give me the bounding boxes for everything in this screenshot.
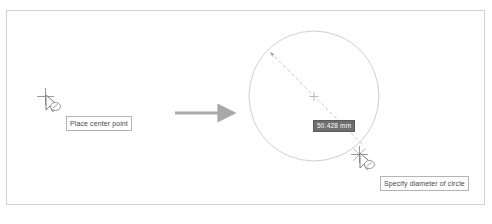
figure-canvas: Place center point Specify diameter of c… [0, 0, 492, 224]
diameter-value-field[interactable]: 50.428 mm [313, 120, 355, 132]
crosshair-circle-cursor-left [34, 86, 68, 116]
tooltip-place-center-point: Place center point [66, 116, 132, 131]
tooltip-specify-diameter: Specify diameter of circle [380, 176, 469, 191]
crosshair-circle-cursor-right [348, 144, 382, 174]
